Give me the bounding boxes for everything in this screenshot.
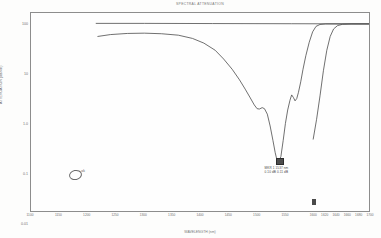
x-tick-label: 1250	[111, 213, 118, 217]
x-axis-tick-labels: 1100115012001250130013501400145015001550…	[30, 213, 370, 225]
plot-area: MKR 1 1537 nm 0.10 dB 0.11 dB ok	[30, 12, 370, 212]
x-tick-label: 1500	[253, 213, 260, 217]
data-traces	[31, 13, 370, 212]
y-axis-tick-labels: 0.010.11.010100	[0, 12, 30, 212]
handwritten-note: ok	[81, 169, 85, 173]
x-tick-label: 1550	[281, 213, 288, 217]
trace-attenuation-curve	[98, 24, 370, 162]
cursor-marker	[276, 158, 284, 165]
x-tick-label: 1660	[344, 213, 351, 217]
x-tick-label: 1100	[27, 213, 34, 217]
chart-screenshot: SPECTRAL ATTENUATION ATTENUATION (dB/km)…	[0, 0, 381, 238]
bottom-axis-marker	[312, 199, 316, 205]
y-tick-label: 0.1	[2, 172, 30, 176]
readout-line-2: 0.10 dB 0.11 dB	[265, 170, 289, 174]
x-tick-label: 1700	[366, 213, 373, 217]
y-tick-label: 0.01	[2, 222, 30, 226]
y-tick-label: 100	[2, 22, 30, 26]
x-tick-label: 1200	[83, 213, 90, 217]
x-tick-label: 1350	[168, 213, 175, 217]
chart-title: SPECTRAL ATTENUATION	[30, 2, 370, 6]
y-tick-label: 1.0	[2, 122, 30, 126]
x-tick-label: 1150	[55, 213, 62, 217]
marker-readout: MKR 1 1537 nm 0.10 dB 0.11 dB	[265, 166, 289, 174]
x-tick-label: 1400	[196, 213, 203, 217]
x-tick-label: 1300	[140, 213, 147, 217]
x-tick-label: 1620	[321, 213, 328, 217]
y-tick-label: 10	[2, 72, 30, 76]
x-tick-label: 1450	[225, 213, 232, 217]
x-tick-label: 1600	[310, 213, 317, 217]
trace-secondary-rise	[313, 24, 370, 139]
x-axis-title: WAVELENGTH (nm)	[30, 230, 370, 234]
x-tick-label: 1680	[355, 213, 362, 217]
x-tick-label: 1640	[332, 213, 339, 217]
